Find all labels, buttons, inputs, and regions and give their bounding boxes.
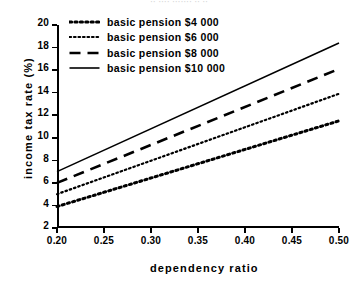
legend-item: basic pension $8 000 <box>69 45 309 61</box>
legend-line-swatch <box>69 32 100 42</box>
x-tick-label: 0.35 <box>188 235 208 246</box>
x-tick <box>103 228 105 233</box>
x-tick-label: 0.30 <box>141 235 161 246</box>
legend-line-swatch <box>69 48 100 58</box>
legend-item-label: basic pension $4 000 <box>107 16 219 28</box>
y-tick-label: 4 <box>43 198 49 209</box>
x-tick-label: 0.40 <box>235 235 255 246</box>
x-tick <box>197 228 199 233</box>
series-line <box>57 69 339 183</box>
y-tick-label: 14 <box>37 85 49 96</box>
x-tick <box>244 228 246 233</box>
x-tick <box>291 228 293 233</box>
y-tick-label: 20 <box>37 17 49 28</box>
legend-item: basic pension $4 000 <box>69 14 309 30</box>
legend: basic pension $4 000basic pension $6 000… <box>69 14 309 76</box>
legend-item: basic pension $10 000 <box>69 61 309 77</box>
x-tick-label: 0.25 <box>94 235 114 246</box>
x-tick-label: 0.50 <box>329 235 349 246</box>
legend-line-swatch <box>69 63 100 73</box>
legend-line-swatch <box>69 17 100 27</box>
series-line <box>57 121 339 207</box>
legend-item-label: basic pension $8 000 <box>107 47 219 59</box>
page-bleed-artifact: ·· ···· ······· ·· ·· <box>0 0 359 5</box>
y-tick-label: 16 <box>37 62 49 73</box>
x-axis-title: dependency ratio <box>150 262 259 274</box>
y-tick-label: 8 <box>43 153 49 164</box>
legend-item: basic pension $6 000 <box>69 30 309 46</box>
y-tick-label: 10 <box>37 130 49 141</box>
chart-figure: ·· ···· ······· ·· ·· income tax rate (%… <box>0 0 359 287</box>
y-tick-label: 18 <box>37 40 49 51</box>
y-tick-label: 12 <box>37 107 49 118</box>
y-axis-title: income tax rate (%) <box>22 18 34 218</box>
x-tick <box>150 228 152 233</box>
y-tick-label: 2 <box>43 220 49 231</box>
series-line <box>57 94 339 194</box>
legend-item-label: basic pension $6 000 <box>107 31 219 43</box>
x-tick-label: 0.45 <box>282 235 302 246</box>
x-tick <box>338 228 340 233</box>
y-tick-label: 6 <box>43 175 49 186</box>
x-tick-label: 0.20 <box>47 235 67 246</box>
legend-item-label: basic pension $10 000 <box>107 62 225 74</box>
x-tick <box>56 228 58 233</box>
